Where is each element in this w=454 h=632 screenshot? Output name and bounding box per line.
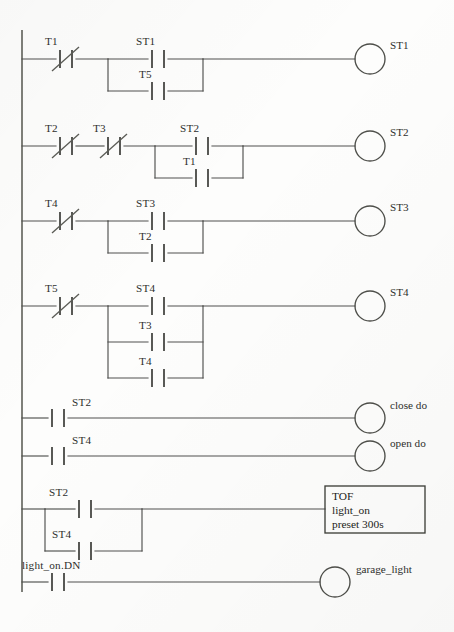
contact-no-t1-r2[interactable] xyxy=(196,169,208,187)
contact-label-t1: T1 xyxy=(45,35,58,47)
contact-label-t5-r4: T5 xyxy=(45,282,58,294)
tof-line-instruction: TOF xyxy=(332,490,353,502)
contact-no-st2[interactable] xyxy=(196,137,208,155)
contact-label-st4: ST4 xyxy=(136,282,155,294)
coil-label-open-door: open do xyxy=(390,437,426,449)
coil-close-door[interactable] xyxy=(355,403,385,433)
contact-label-st3: ST3 xyxy=(136,197,155,209)
rung-1: T1 ST1 T5 ST1 xyxy=(22,35,409,100)
coil-label-garage-light: garage_light xyxy=(356,563,413,575)
coil-label-st3: ST3 xyxy=(390,201,409,213)
coil-label-st4: ST4 xyxy=(390,286,409,298)
contact-label-st2-r7: ST2 xyxy=(49,486,68,498)
coil-label-st1: ST1 xyxy=(390,39,409,51)
coil-st1[interactable] xyxy=(355,44,385,74)
rung-4: T5 ST4 T3 T xyxy=(22,282,409,387)
rung-3: T4 ST3 T2 ST3 xyxy=(22,197,409,262)
contact-label-t1-r2: T1 xyxy=(183,155,196,167)
contact-no-st4-r7[interactable] xyxy=(79,542,91,560)
contact-label-st4-r7: ST4 xyxy=(52,528,71,540)
contact-label-light-on-dn: light_on.DN xyxy=(22,559,80,571)
contact-label-st1: ST1 xyxy=(136,35,155,47)
contact-no-st4-r6[interactable] xyxy=(52,447,64,465)
contact-label-t2: T2 xyxy=(45,122,58,134)
contact-label-t4: T4 xyxy=(45,197,58,209)
contact-label-t5: T5 xyxy=(139,68,152,80)
ladder-diagram-page: T1 ST1 T5 ST1 xyxy=(0,0,454,632)
contact-no-st2-r7[interactable] xyxy=(79,500,91,518)
rung-5: ST2 close do xyxy=(22,396,427,433)
rung-6: ST4 open do xyxy=(22,434,426,471)
contact-no-t3-r4[interactable] xyxy=(152,333,164,351)
ladder-logic-canvas: T1 ST1 T5 ST1 xyxy=(0,0,454,632)
coil-label-st2: ST2 xyxy=(390,126,409,138)
coil-st2[interactable] xyxy=(355,131,385,161)
contact-no-t4-r4[interactable] xyxy=(152,369,164,387)
tof-line-tag: light_on xyxy=(332,504,370,516)
rung-7: ST2 ST4 TOF light_on preset 300s xyxy=(22,486,425,560)
contact-no-t2-r3[interactable] xyxy=(152,244,164,262)
rung-8: light_on.DN garage_light xyxy=(22,559,413,597)
contact-label-st2: ST2 xyxy=(180,122,199,134)
contact-label-t3-r4: T3 xyxy=(139,319,152,331)
coil-st4[interactable] xyxy=(355,291,385,321)
contact-no-light-on-dn[interactable] xyxy=(52,573,64,591)
coil-open-door[interactable] xyxy=(355,441,385,471)
contact-label-st2-r5: ST2 xyxy=(72,396,91,408)
contact-label-st4-r6: ST4 xyxy=(72,434,91,446)
contact-label-t3: T3 xyxy=(93,122,106,134)
coil-garage-light[interactable] xyxy=(320,567,350,597)
coil-st3[interactable] xyxy=(355,206,385,236)
contact-no-st3[interactable] xyxy=(152,212,164,230)
contact-label-t2-r3: T2 xyxy=(139,230,152,242)
contact-no-t5[interactable] xyxy=(152,82,164,100)
rung-2: T2 T3 ST2 T1 xyxy=(22,122,409,187)
contact-label-t4-r4: T4 xyxy=(139,355,152,367)
contact-no-st4[interactable] xyxy=(152,297,164,315)
contact-no-st2-r5[interactable] xyxy=(52,409,64,427)
contact-no-st1[interactable] xyxy=(152,50,164,68)
tof-line-preset: preset 300s xyxy=(332,518,384,530)
coil-label-close-door: close do xyxy=(390,399,427,411)
